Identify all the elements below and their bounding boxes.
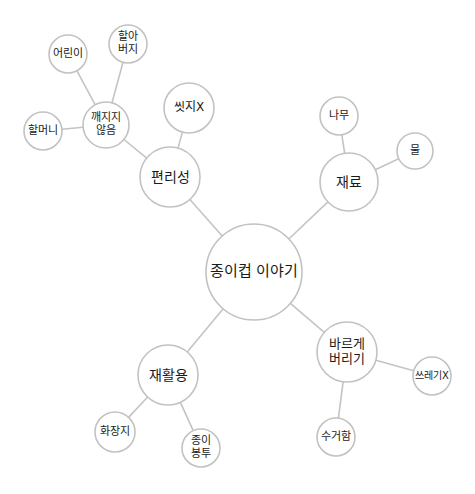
node-grandfather[interactable]	[109, 25, 147, 63]
edge-paper-cup-story-to-materials	[289, 202, 328, 239]
edge-recycling-to-tissue	[129, 397, 148, 417]
edge-paper-cup-story-to-convenience	[190, 200, 222, 237]
node-tree[interactable]	[320, 97, 358, 135]
edge-convenience-to-no-washing	[178, 132, 182, 148]
edge-paper-cup-story-to-proper-disposal	[290, 303, 324, 332]
node-no-washing[interactable]	[164, 83, 214, 133]
node-materials[interactable]	[320, 153, 378, 211]
node-recycling[interactable]	[138, 345, 198, 405]
node-no-trash[interactable]	[413, 357, 451, 395]
node-proper-disposal[interactable]	[317, 322, 377, 382]
edge-paper-cup-story-to-recycling	[187, 309, 223, 352]
edge-unbreakable-to-grandmother	[62, 127, 83, 129]
node-convenience[interactable]	[140, 147, 200, 207]
node-unbreakable[interactable]	[83, 102, 129, 148]
edge-unbreakable-to-grandfather	[112, 62, 123, 103]
edge-unbreakable-to-children	[77, 71, 95, 105]
node-paper-bag[interactable]	[182, 429, 220, 467]
central-node-paper-cup-story[interactable]	[206, 224, 302, 320]
node-collection-bin[interactable]	[317, 418, 355, 456]
node-tissue[interactable]	[95, 412, 135, 452]
edge-materials-to-water	[375, 159, 399, 170]
edge-proper-disposal-to-no-trash	[376, 360, 414, 371]
edge-materials-to-tree	[342, 135, 345, 154]
edge-convenience-to-unbreakable	[124, 140, 147, 159]
node-grandmother[interactable]	[24, 112, 62, 150]
edge-recycling-to-paper-bag	[180, 402, 193, 430]
node-water[interactable]	[397, 133, 433, 169]
node-children[interactable]	[49, 35, 87, 73]
edge-proper-disposal-to-collection-bin	[338, 382, 343, 418]
